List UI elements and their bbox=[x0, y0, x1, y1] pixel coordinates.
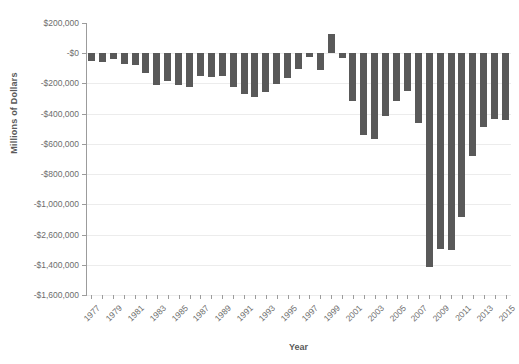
plot-area: $200,000-$0-$200,000-$400,000-$600,000-$… bbox=[86, 23, 511, 295]
bar bbox=[88, 53, 95, 61]
bar bbox=[251, 53, 258, 97]
x-tick-mark bbox=[277, 295, 278, 299]
x-tick-mark bbox=[102, 295, 103, 299]
bar-chart: Millions of Dollars $200,000-$0-$200,000… bbox=[0, 0, 519, 364]
bar bbox=[480, 53, 487, 126]
bar bbox=[110, 53, 117, 59]
y-tick-mark bbox=[82, 174, 86, 175]
x-tick-mark bbox=[375, 295, 376, 299]
bar bbox=[164, 53, 171, 81]
bar bbox=[349, 53, 356, 101]
y-tick-label: -$400,000 bbox=[41, 109, 79, 119]
bar bbox=[491, 53, 498, 119]
x-tick-mark bbox=[462, 295, 463, 299]
bar bbox=[426, 53, 433, 267]
bar bbox=[273, 53, 280, 84]
x-tick-mark bbox=[244, 295, 245, 299]
bar bbox=[175, 53, 182, 85]
x-tick-mark bbox=[168, 295, 169, 299]
x-tick-mark bbox=[266, 295, 267, 299]
x-tick-mark bbox=[288, 295, 289, 299]
x-tick-mark bbox=[407, 295, 408, 299]
x-tick-mark bbox=[255, 295, 256, 299]
bar bbox=[382, 53, 389, 115]
y-tick-label: -$1,600,000 bbox=[34, 290, 79, 300]
gridline bbox=[87, 265, 511, 266]
bar bbox=[317, 53, 324, 69]
x-tick-mark bbox=[309, 295, 310, 299]
bar bbox=[153, 53, 160, 84]
y-tick-label: $200,000 bbox=[44, 18, 79, 28]
bar bbox=[437, 53, 444, 249]
y-tick-label: -$600,000 bbox=[41, 139, 79, 149]
y-tick-mark bbox=[82, 144, 86, 145]
y-tick-mark bbox=[82, 204, 86, 205]
x-tick-mark bbox=[157, 295, 158, 299]
x-tick-mark bbox=[495, 295, 496, 299]
bar bbox=[262, 53, 269, 92]
bar bbox=[371, 53, 378, 139]
y-tick-label: -$1,400,000 bbox=[34, 260, 79, 270]
y-tick-mark bbox=[82, 53, 86, 54]
x-tick-mark bbox=[484, 295, 485, 299]
x-tick-mark bbox=[113, 295, 114, 299]
y-tick-label: -$2,600,000 bbox=[34, 230, 79, 240]
y-tick-mark bbox=[82, 235, 86, 236]
bar bbox=[142, 53, 149, 72]
x-tick-mark bbox=[397, 295, 398, 299]
x-tick-mark bbox=[386, 295, 387, 299]
y-tick-label: -$200,000 bbox=[41, 78, 79, 88]
x-tick-mark bbox=[91, 295, 92, 299]
bar bbox=[99, 53, 106, 62]
x-tick-mark bbox=[179, 295, 180, 299]
y-tick-label: -$1,000,000 bbox=[34, 199, 79, 209]
bar bbox=[284, 53, 291, 78]
x-tick-mark bbox=[222, 295, 223, 299]
bar bbox=[458, 53, 465, 217]
x-tick-mark bbox=[211, 295, 212, 299]
bar bbox=[502, 53, 509, 119]
x-tick-mark bbox=[451, 295, 452, 299]
bar bbox=[469, 53, 476, 156]
y-tick-mark bbox=[82, 265, 86, 266]
x-tick-mark bbox=[135, 295, 136, 299]
bar bbox=[339, 53, 346, 58]
bar bbox=[306, 53, 313, 56]
bar bbox=[404, 53, 411, 91]
y-tick-label: -$0 bbox=[67, 48, 79, 58]
bar bbox=[197, 53, 204, 76]
bar bbox=[241, 53, 248, 94]
bar bbox=[448, 53, 455, 249]
y-tick-mark bbox=[82, 23, 86, 24]
bar bbox=[230, 53, 237, 86]
y-tick-mark bbox=[82, 114, 86, 115]
bar bbox=[415, 53, 422, 122]
x-tick-mark bbox=[429, 295, 430, 299]
bar bbox=[360, 53, 367, 134]
x-tick-mark bbox=[473, 295, 474, 299]
x-tick-mark bbox=[342, 295, 343, 299]
bar bbox=[295, 53, 302, 69]
x-tick-mark bbox=[506, 295, 507, 299]
x-tick-mark bbox=[200, 295, 201, 299]
y-axis-line bbox=[86, 23, 87, 295]
y-tick-label: -$800,000 bbox=[41, 169, 79, 179]
x-tick-mark bbox=[320, 295, 321, 299]
x-tick-mark bbox=[124, 295, 125, 299]
x-tick-mark bbox=[440, 295, 441, 299]
bar bbox=[208, 53, 215, 76]
x-tick-mark bbox=[364, 295, 365, 299]
bar bbox=[121, 53, 128, 64]
x-tick-mark bbox=[146, 295, 147, 299]
y-tick-mark bbox=[82, 83, 86, 84]
y-axis-title: Millions of Dollars bbox=[9, 53, 19, 173]
x-tick-mark bbox=[190, 295, 191, 299]
bar bbox=[219, 53, 226, 76]
x-tick-mark bbox=[331, 295, 332, 299]
x-tick-mark bbox=[233, 295, 234, 299]
x-tick-mark bbox=[353, 295, 354, 299]
x-tick-mark bbox=[299, 295, 300, 299]
bar bbox=[328, 34, 335, 53]
bar bbox=[132, 53, 139, 65]
bottom-edge-artifact bbox=[0, 357, 519, 364]
